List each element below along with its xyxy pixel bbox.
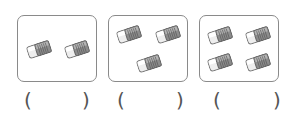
eraser-icon (116, 25, 143, 45)
answer-open-paren-1: ( (24, 90, 32, 110)
eraser-icon (207, 26, 234, 46)
eraser-icon (207, 53, 234, 73)
answer-close-paren-3: ) (273, 90, 281, 110)
eraser-icon (245, 26, 272, 46)
answer-open-paren-3: ( (213, 90, 221, 110)
eraser-icon (136, 54, 163, 74)
eraser-icon (64, 40, 91, 60)
answer-close-paren-1: ) (82, 90, 90, 110)
answer-close-paren-2: ) (176, 90, 184, 110)
group-box-1 (17, 15, 97, 82)
eraser-icon (245, 53, 272, 73)
group-box-2 (108, 15, 188, 82)
eraser-icon (26, 40, 53, 60)
group-box-3 (199, 15, 279, 82)
answer-open-paren-2: ( (117, 90, 125, 110)
eraser-icon (155, 25, 182, 45)
